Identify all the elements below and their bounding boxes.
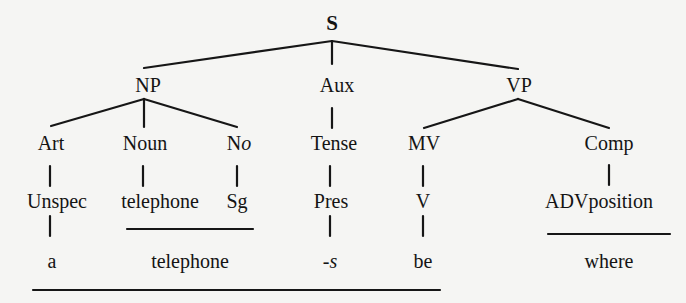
node-no: No — [227, 132, 251, 154]
node-comp: Comp — [585, 132, 634, 154]
node-vp: VP — [506, 74, 532, 96]
node-s: S — [326, 12, 338, 34]
node-no-n: N — [227, 132, 241, 154]
node-tense: Tense — [311, 132, 357, 154]
node-pres: Pres — [314, 190, 348, 212]
node-advposition: ADVposition — [545, 190, 653, 212]
node-no-o: o — [241, 132, 251, 154]
syntax-tree-diagram: S NP Aux VP Art Noun No Tense MV Comp Un… — [0, 0, 686, 303]
word-telephone: telephone — [151, 250, 229, 272]
node-v: V — [416, 190, 430, 212]
word-where: where — [585, 250, 634, 272]
node-telephone-lex: telephone — [121, 190, 199, 212]
word-s-suffix: -s — [323, 250, 337, 272]
node-aux: Aux — [320, 74, 354, 96]
node-mv: MV — [408, 132, 440, 154]
node-np: NP — [135, 74, 161, 96]
node-art: Art — [38, 132, 65, 154]
node-unspec: Unspec — [27, 190, 87, 212]
word-be: be — [414, 250, 433, 272]
word-a: a — [48, 250, 57, 272]
node-sg: Sg — [226, 190, 247, 212]
node-noun: Noun — [123, 132, 167, 154]
